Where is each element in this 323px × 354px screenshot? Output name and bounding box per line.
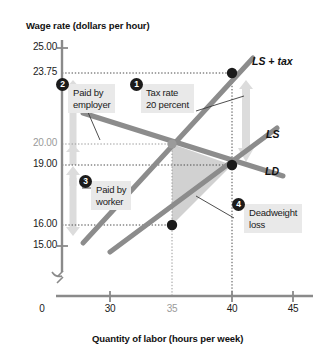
curve-label-ld: LD — [265, 165, 279, 177]
marker-equilibrium-after-tax — [227, 68, 237, 78]
axis-break-mark — [52, 271, 63, 283]
y-tick-label-15-00: 15.00 — [19, 239, 57, 250]
curve-label-ls-plus-tax: LS + tax — [252, 55, 293, 67]
x-tick-label-0: 0 — [32, 303, 52, 314]
x-tick-label-35: 35 — [162, 303, 182, 314]
leader-deadweight-loss — [196, 196, 234, 218]
x-tick-label-30: 30 — [100, 303, 120, 314]
x-tick-label-45: 45 — [283, 303, 303, 314]
x-tick-label-40: 40 — [222, 303, 242, 314]
callout-deadweight-loss-line1: Deadweight — [249, 207, 297, 219]
annotation-badge-4: 4 — [232, 198, 245, 211]
callout-paid-by-employer-line1: Paid by — [73, 87, 110, 99]
callout-tax-rate-line1: Tax rate — [146, 87, 189, 99]
marker-supply-quantity-point — [167, 220, 177, 230]
chart-canvas — [0, 0, 323, 354]
y-tick-label-16-00: 16.00 — [19, 218, 57, 229]
callout-tax-rate: Tax rate 20 percent — [141, 84, 194, 113]
callout-deadweight-loss: Deadweight loss — [244, 204, 302, 233]
curve-label-ls: LS — [266, 128, 279, 140]
callout-paid-by-worker-line2: worker — [96, 196, 126, 208]
y-tick-label-19-00: 19.00 — [19, 158, 57, 169]
y-tick-label-23-75: 23.75 — [19, 66, 57, 77]
annotation-badge-3: 3 — [79, 175, 92, 188]
callout-paid-by-worker-line1: Paid by — [96, 184, 126, 196]
leader-tax-rate — [196, 96, 244, 111]
callout-paid-by-employer-line2: employer — [73, 99, 110, 111]
callout-paid-by-worker: Paid by worker — [91, 181, 131, 210]
annotation-badge-2: 2 — [56, 78, 69, 91]
callout-tax-rate-line2: 20 percent — [146, 99, 189, 111]
annotation-badge-1: 1 — [130, 78, 143, 91]
x-axis-title: Quantity of labor (hours per week) — [92, 333, 243, 344]
callout-paid-by-employer: Paid by employer — [68, 84, 115, 113]
y-tick-label-20-00: 20.00 — [19, 137, 57, 148]
callout-deadweight-loss-line2: loss — [249, 219, 297, 231]
y-axis-title: Wage rate (dollars per hour) — [26, 20, 150, 31]
economics-chart-figure: Wage rate (dollars per hour) Quantity of… — [0, 0, 323, 354]
marker-intersection-ls-tax — [167, 139, 176, 148]
marker-equilibrium-before-tax — [227, 160, 237, 170]
y-tick-label-25-00: 25.00 — [19, 41, 57, 52]
